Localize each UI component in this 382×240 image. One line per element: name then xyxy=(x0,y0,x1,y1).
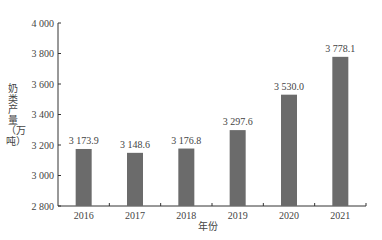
bar xyxy=(230,130,246,206)
x-axis-label: 年份 xyxy=(198,218,218,233)
bar xyxy=(178,149,194,206)
y-tick-label: 4 000 xyxy=(32,18,55,29)
x-tick-label: 2017 xyxy=(125,210,145,221)
y-tick-label: 2 800 xyxy=(32,201,55,212)
bar xyxy=(76,149,92,206)
data-label: 3 173.9 xyxy=(69,135,99,146)
data-label: 3 778.1 xyxy=(325,43,355,54)
x-tick-label: 2018 xyxy=(176,210,196,221)
x-tick-label: 2019 xyxy=(228,210,248,221)
chart-canvas: 2 8003 0003 2003 4003 6003 8004 0003 173… xyxy=(0,0,382,240)
y-tick-label: 3 200 xyxy=(32,140,55,151)
y-tick-label: 3 600 xyxy=(32,79,55,90)
y-tick-label: 3 000 xyxy=(32,170,55,181)
x-tick-label: 2021 xyxy=(330,210,350,221)
bar xyxy=(332,57,348,206)
data-label: 3 176.8 xyxy=(171,135,201,146)
y-tick-label: 3 800 xyxy=(32,48,55,59)
x-tick-label: 2020 xyxy=(279,210,299,221)
data-label: 3 297.6 xyxy=(223,116,253,127)
y-axis-label: 奶类产量（万吨） xyxy=(6,84,20,147)
data-label: 3 530.0 xyxy=(274,81,304,92)
y-tick-label: 3 400 xyxy=(32,109,55,120)
x-tick-label: 2016 xyxy=(74,210,94,221)
bar xyxy=(281,95,297,206)
data-label: 3 148.6 xyxy=(120,139,150,150)
bar xyxy=(127,153,143,206)
bar-chart: 2 8003 0003 2003 4003 6003 8004 0003 173… xyxy=(0,0,382,240)
